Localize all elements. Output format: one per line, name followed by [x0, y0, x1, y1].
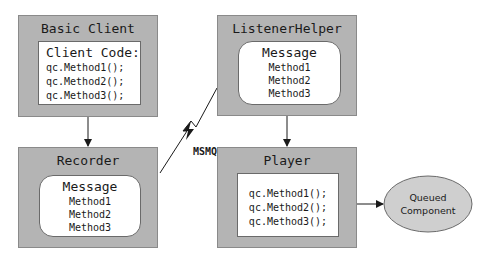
message-heading: Message [40, 179, 140, 195]
method-line: Method2 [239, 74, 340, 87]
recorder-message-box: Message Method1 Method2 Method3 [39, 175, 141, 237]
listener-helper-title: ListenerHelper [218, 21, 356, 36]
msmq-label: MSMQ [193, 146, 217, 157]
method-line: Method1 [40, 195, 140, 208]
code-line: qc.Method3(); [46, 89, 140, 103]
queued-component-line1: Queued [384, 191, 472, 204]
listener-helper-box: ListenerHelper Message Method1 Method2 M… [217, 15, 357, 116]
method-line: Method3 [40, 221, 140, 234]
code-line: qc.Method1(); [238, 187, 338, 201]
method-line: Method1 [239, 61, 340, 74]
method-line: Method3 [239, 87, 340, 100]
message-heading: Message [239, 45, 340, 61]
method-line: Method2 [40, 208, 140, 221]
player-box: Player qc.Method1(); qc.Method2(); qc.Me… [217, 147, 357, 248]
basic-client-box: Basic Client Client Code: qc.Method1(); … [18, 15, 158, 117]
basic-client-title: Basic Client [19, 21, 157, 36]
recorder-box: Recorder Message Method1 Method2 Method3 [18, 147, 158, 248]
listener-message-box: Message Method1 Method2 Method3 [238, 41, 341, 105]
queued-component-label: Queued Component [384, 191, 472, 217]
client-code-heading: Client Code: [46, 45, 140, 61]
code-line: qc.Method3(); [238, 215, 338, 229]
player-code-box: qc.Method1(); qc.Method2(); qc.Method3()… [237, 173, 339, 237]
code-line: qc.Method2(); [46, 75, 140, 89]
recorder-title: Recorder [19, 153, 157, 168]
code-line: qc.Method2(); [238, 201, 338, 215]
player-title: Player [218, 153, 356, 168]
client-code-box: Client Code: qc.Method1(); qc.Method2();… [38, 41, 141, 105]
code-line: qc.Method1(); [46, 61, 140, 75]
queued-component-line2: Component [384, 204, 472, 217]
